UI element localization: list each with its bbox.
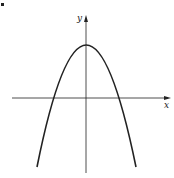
- chart-svg: x y: [0, 0, 174, 178]
- x-axis-label: x: [164, 100, 169, 110]
- y-axis-label: y: [76, 13, 83, 23]
- marker-dot: [1, 3, 4, 6]
- parabola-figure: x y: [0, 0, 174, 178]
- parabola-curve: [37, 45, 136, 167]
- y-axis-arrow-icon: [84, 15, 88, 22]
